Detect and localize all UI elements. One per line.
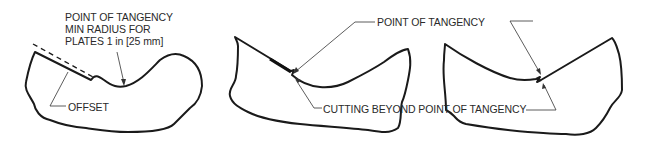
offset-dashed-line: [33, 44, 93, 77]
tangency-arrowhead-1: [121, 79, 126, 86]
label-cutting-beyond-point-of-tangency: CUTTING BEYOND POINT OF TANGENCY: [323, 103, 526, 115]
panel-2-plate: [230, 22, 411, 132]
tangency-leader-2: [295, 22, 375, 72]
panel-3-plate: [443, 21, 622, 135]
tangency-leader-3: [510, 21, 540, 73]
cutting-leader-3: [526, 85, 556, 110]
tangency-diagram: POINT OF TANGENCY MIN RADIUS FOR PLATES …: [0, 0, 646, 149]
label-offset: OFFSET: [68, 101, 109, 113]
tangency-arrowhead-3: [536, 68, 541, 75]
label-line-3: PLATES 1 in [25 mm]: [65, 35, 173, 47]
cutting-arrowhead-3: [542, 83, 546, 89]
tangency-leader-1: [117, 52, 124, 83]
plate-1-outline: [26, 52, 202, 132]
offset-leader: [50, 72, 68, 106]
label-point-of-tangency-min-radius: POINT OF TANGENCY MIN RADIUS FOR PLATES …: [65, 11, 173, 47]
label-line-1: POINT OF TANGENCY: [65, 11, 173, 23]
cutting-arrowhead-2: [294, 77, 301, 83]
panel-1-plate: [26, 44, 202, 132]
label-line-2: MIN RADIUS FOR: [65, 23, 173, 35]
kerf-thick-segment: [270, 59, 291, 72]
plate-3-outline: [443, 38, 622, 135]
label-point-of-tangency: POINT OF TANGENCY: [377, 16, 485, 28]
